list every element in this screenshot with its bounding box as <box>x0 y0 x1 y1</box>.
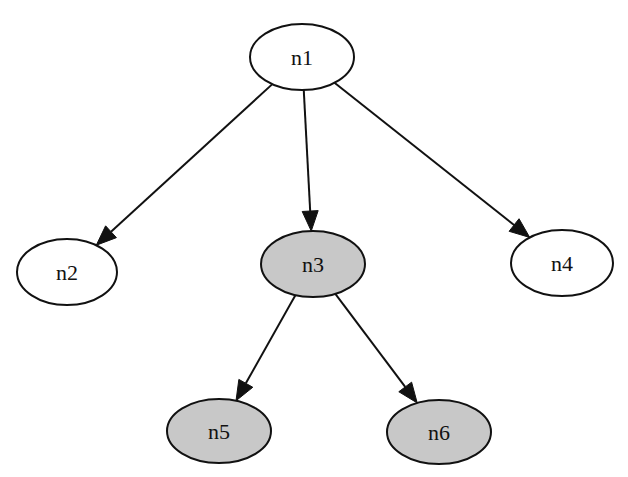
edge-line <box>246 295 296 383</box>
edge-n1-n3 <box>302 90 318 231</box>
node-n1: n1 <box>250 24 354 90</box>
node-n3: n3 <box>261 231 365 297</box>
node-n6: n6 <box>387 400 491 464</box>
node-label: n3 <box>302 252 324 277</box>
edge-n1-n2 <box>96 84 272 245</box>
arrowhead-icon <box>399 382 417 403</box>
nodes-layer: n1n2n3n4n5n6 <box>17 24 613 464</box>
node-label: n1 <box>291 45 313 70</box>
tree-diagram: n1n2n3n4n5n6 <box>0 0 628 477</box>
edge-n1-n4 <box>335 83 530 238</box>
node-n4: n4 <box>511 230 613 296</box>
edge-n3-n6 <box>335 294 417 403</box>
node-label: n2 <box>56 260 78 285</box>
edge-line <box>335 83 515 225</box>
node-n5: n5 <box>167 399 271 463</box>
arrowhead-icon <box>302 211 318 231</box>
edge-line <box>111 84 272 232</box>
edge-line <box>335 294 405 387</box>
arrowhead-icon <box>236 379 253 400</box>
node-n2: n2 <box>17 239 117 305</box>
node-label: n6 <box>428 420 450 445</box>
edge-line <box>304 90 310 211</box>
edge-n3-n5 <box>236 295 295 401</box>
arrowhead-icon <box>509 219 530 238</box>
node-label: n5 <box>208 419 230 444</box>
node-label: n4 <box>551 251 573 276</box>
